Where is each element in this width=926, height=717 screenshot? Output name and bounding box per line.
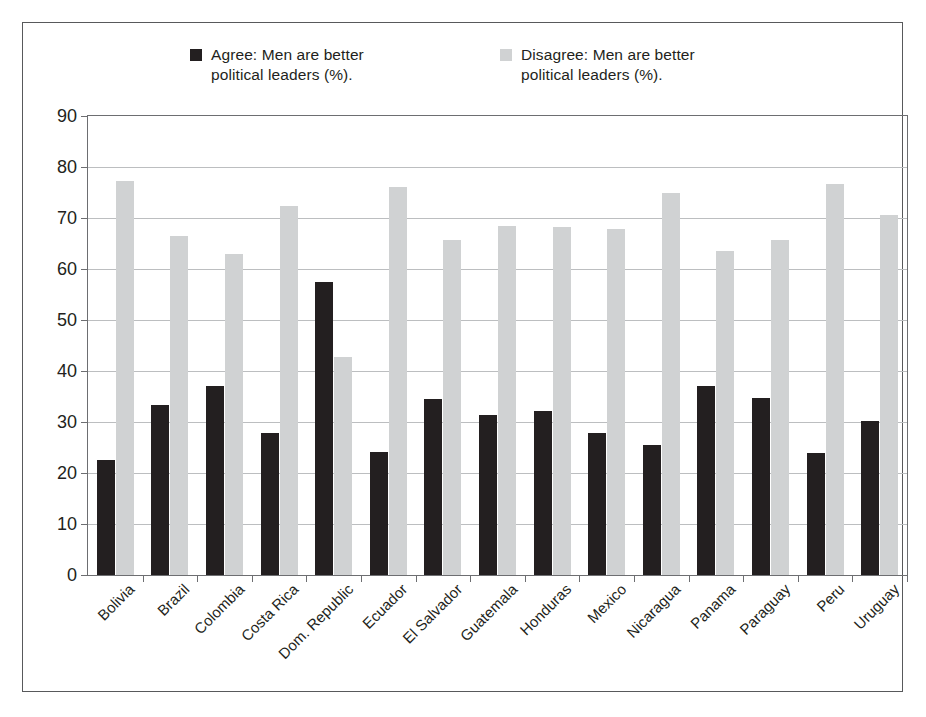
y-axis-tick-mark <box>81 269 88 270</box>
bars-layer <box>88 116 907 575</box>
figure-frame: Agree: Men are better political leaders … <box>22 22 903 692</box>
bar-disagree <box>662 193 680 576</box>
y-axis-tick-label: 70 <box>57 208 77 229</box>
bar-disagree <box>607 229 625 575</box>
bar-disagree <box>716 251 734 575</box>
y-axis-tick-label: 90 <box>57 106 77 127</box>
y-axis-tick-mark <box>81 575 88 576</box>
bar-group <box>807 116 844 575</box>
legend-entry-disagree: Disagree: Men are better political leade… <box>500 45 695 85</box>
bar-group <box>588 116 625 575</box>
chart-legend: Agree: Men are better political leaders … <box>23 39 902 101</box>
y-axis-tick-label: 0 <box>67 565 77 586</box>
bar-disagree <box>280 206 298 575</box>
bar-disagree <box>880 215 898 575</box>
bar-group <box>261 116 298 575</box>
y-axis-tick-mark <box>81 422 88 423</box>
bar-disagree <box>826 184 844 575</box>
y-axis-tick-label: 80 <box>57 157 77 178</box>
bar-group <box>861 116 898 575</box>
y-axis-tick-mark <box>81 116 88 117</box>
bar-group <box>206 116 243 575</box>
bar-group <box>151 116 188 575</box>
y-axis-tick-label: 30 <box>57 412 77 433</box>
bar-disagree <box>498 226 516 575</box>
bar-group <box>697 116 734 575</box>
bar-agree <box>97 460 115 575</box>
bar-disagree <box>771 240 789 575</box>
y-axis-tick-mark <box>81 473 88 474</box>
bar-group <box>479 116 516 575</box>
bar-group <box>534 116 571 575</box>
bar-agree <box>315 282 333 575</box>
y-axis-tick-mark <box>81 320 88 321</box>
y-axis-tick-label: 40 <box>57 361 77 382</box>
y-axis-tick-label: 50 <box>57 310 77 331</box>
y-axis-tick-label: 10 <box>57 514 77 535</box>
y-axis-tick-mark <box>81 218 88 219</box>
bar-group <box>97 116 134 575</box>
legend-swatch-disagree <box>500 49 512 61</box>
bar-group <box>752 116 789 575</box>
bar-disagree <box>553 227 571 575</box>
bar-group <box>424 116 461 575</box>
x-axis-labels: BoliviaBrazilColombiaCosta RicaDom. Repu… <box>87 579 906 679</box>
bar-disagree <box>225 254 243 575</box>
bar-disagree <box>443 240 461 575</box>
bar-group <box>315 116 352 575</box>
legend-label-agree: Agree: Men are better political leaders … <box>211 45 364 85</box>
legend-swatch-agree <box>190 49 202 61</box>
y-axis-tick-label: 60 <box>57 259 77 280</box>
y-axis-tick-mark <box>81 524 88 525</box>
legend-label-disagree: Disagree: Men are better political leade… <box>521 45 695 85</box>
legend-entry-agree: Agree: Men are better political leaders … <box>190 45 364 85</box>
bar-group <box>643 116 680 575</box>
y-axis-tick-mark <box>81 371 88 372</box>
bar-group <box>370 116 407 575</box>
bar-disagree <box>170 236 188 575</box>
y-axis-tick-label: 20 <box>57 463 77 484</box>
bar-agree <box>861 421 879 575</box>
bar-agree <box>206 386 224 575</box>
plot-area: 9080706050403020100 <box>87 115 908 576</box>
y-axis-tick-mark <box>81 167 88 168</box>
bar-disagree <box>116 181 134 575</box>
